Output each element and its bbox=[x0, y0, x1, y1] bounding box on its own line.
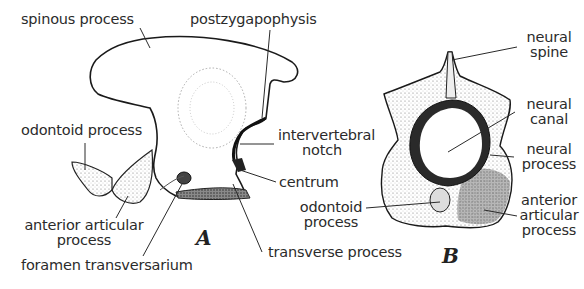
label-spinous-process: spinous process bbox=[21, 12, 134, 27]
label-neural-spine: neural spine bbox=[514, 30, 584, 60]
label-line: notch bbox=[278, 143, 378, 158]
label-odontoid-process-a: odontoid process bbox=[21, 123, 142, 138]
label-line: intervertebral bbox=[278, 128, 378, 143]
label-line: process bbox=[514, 157, 584, 172]
figure-b-drawing bbox=[381, 52, 512, 228]
figure-label-a: A bbox=[196, 226, 212, 250]
label-anterior-articular-process-a: anterior articular process bbox=[19, 218, 149, 248]
label-line: process bbox=[19, 233, 149, 248]
label-neural-process: neural process bbox=[514, 142, 584, 172]
label-odontoid-process-b: odontoid process bbox=[296, 200, 366, 230]
label-neural-canal: neural canal bbox=[514, 97, 584, 127]
label-anterior-articular-process-b: anterior articular process bbox=[514, 193, 584, 238]
label-line: anterior bbox=[514, 193, 584, 208]
label-line: anterior articular bbox=[19, 218, 149, 233]
odontoid-b-shape bbox=[430, 188, 450, 212]
label-transverse-process: transverse process bbox=[268, 245, 402, 260]
label-line: neural bbox=[514, 30, 584, 45]
spinous-process-shape bbox=[90, 37, 297, 196]
label-line: process bbox=[296, 215, 366, 230]
label-line: spine bbox=[514, 45, 584, 60]
label-centrum: centrum bbox=[279, 175, 339, 190]
label-postzygapophysis: postzygapophysis bbox=[190, 12, 317, 27]
label-intervertebral-notch: intervertebral notch bbox=[278, 128, 378, 158]
label-line: neural bbox=[514, 142, 584, 157]
figure-label-b: B bbox=[442, 244, 459, 268]
label-line: canal bbox=[514, 112, 584, 127]
odontoid-shape bbox=[72, 162, 112, 196]
label-line: neural bbox=[514, 97, 584, 112]
label-line: odontoid bbox=[296, 200, 366, 215]
label-line: process bbox=[514, 223, 584, 238]
label-foramen-transversarium: foramen transversarium bbox=[21, 258, 193, 273]
label-line: articular bbox=[514, 208, 584, 223]
neural-spine-shape bbox=[446, 52, 456, 98]
anterior-articular-shape bbox=[112, 150, 153, 203]
